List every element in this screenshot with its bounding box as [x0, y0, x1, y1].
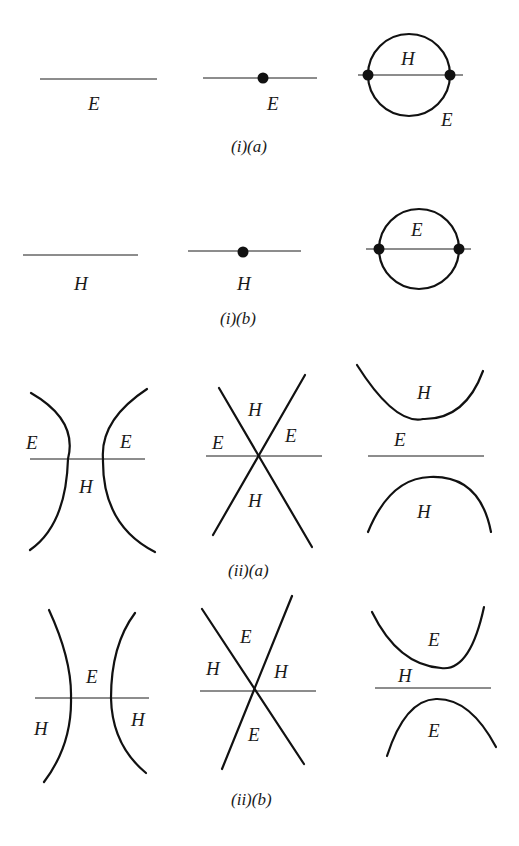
region-label: E: [85, 666, 98, 687]
region-label: H: [33, 718, 49, 739]
region-label: H: [247, 490, 263, 511]
diagram-ii-b-crossing-lines: E H H E: [200, 596, 316, 769]
region-label: E: [25, 432, 38, 453]
vertex-dot-icon: [454, 244, 465, 255]
region-label: H: [397, 665, 413, 686]
region-label: E: [427, 629, 440, 650]
region-label: E: [87, 93, 100, 114]
left-branch-curve: [44, 610, 71, 782]
diagram-i-b-line-dot: H: [188, 247, 301, 295]
region-label: E: [239, 626, 252, 647]
region-label: H: [73, 273, 89, 294]
diagram-i-b-line: H: [23, 255, 138, 294]
diagram-ii-a-crossing-lines: H E E H: [206, 375, 322, 547]
lower-branch-curve: [387, 699, 496, 756]
region-label: H: [205, 658, 221, 679]
crossing-line: [219, 388, 312, 547]
region-label: E: [440, 109, 453, 130]
diagram-i-b-loop: E: [366, 209, 471, 289]
panel-ii-b: E H H E H H E E H E (ii)(b): [33, 596, 496, 809]
region-label: H: [78, 476, 94, 497]
vertex-dot-icon: [363, 70, 374, 81]
region-label: E: [393, 429, 406, 450]
vertex-dot-icon: [445, 70, 456, 81]
region-label: H: [416, 382, 432, 403]
right-branch-curve: [103, 389, 155, 552]
vertex-dot-icon: [258, 73, 269, 84]
diagram-i-a-line-dot: E: [203, 73, 317, 115]
panel-caption: (i)(b): [220, 309, 256, 328]
region-label: H: [400, 48, 416, 69]
diagram-ii-a-vertical-hyperbola: E E H: [25, 389, 155, 552]
region-label: H: [273, 661, 289, 682]
vertex-dot-icon: [374, 244, 385, 255]
region-label: E: [410, 219, 423, 240]
panel-caption: (ii)(a): [228, 561, 269, 580]
vertex-dot-icon: [238, 247, 249, 258]
diagram-ii-a-horizontal-hyperbola: H E H: [357, 365, 491, 532]
region-label: H: [247, 399, 263, 420]
region-label: H: [236, 273, 252, 294]
diagram-ii-b-vertical-hyperbola: E H H: [33, 610, 149, 782]
panel-ii-a: E E H H E E H H E H (ii)(a): [25, 365, 491, 580]
panel-i-a: E E H E (i)(a): [40, 34, 463, 156]
figure-canvas: E E H E (i)(a) H H: [0, 0, 519, 846]
region-label: E: [119, 431, 132, 452]
panel-caption: (ii)(b): [231, 790, 272, 809]
diagram-i-a-line: E: [40, 79, 157, 114]
region-label: H: [416, 501, 432, 522]
diagram-i-a-loop: H E: [358, 34, 463, 130]
region-label: E: [211, 432, 224, 453]
diagram-ii-b-horizontal-hyperbola: E H E: [372, 607, 496, 756]
left-branch-curve: [30, 393, 70, 550]
region-label: E: [247, 724, 260, 745]
region-label: E: [266, 93, 279, 114]
region-label: E: [284, 425, 297, 446]
region-label: H: [130, 709, 146, 730]
right-branch-curve: [111, 613, 146, 773]
panel-caption: (i)(a): [231, 137, 267, 156]
region-label: E: [427, 720, 440, 741]
panel-i-b: H H E (i)(b): [23, 209, 471, 328]
